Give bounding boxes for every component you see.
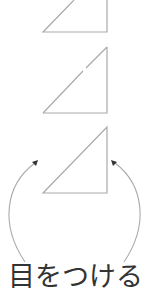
- triangle-3: [43, 127, 107, 193]
- caption-text: 目をつける: [0, 262, 151, 292]
- right-curved-arrow-icon: [111, 160, 140, 262]
- triangle-2: [43, 47, 107, 113]
- triangle-1: [43, 0, 107, 32]
- left-curved-arrow-icon: [9, 160, 38, 262]
